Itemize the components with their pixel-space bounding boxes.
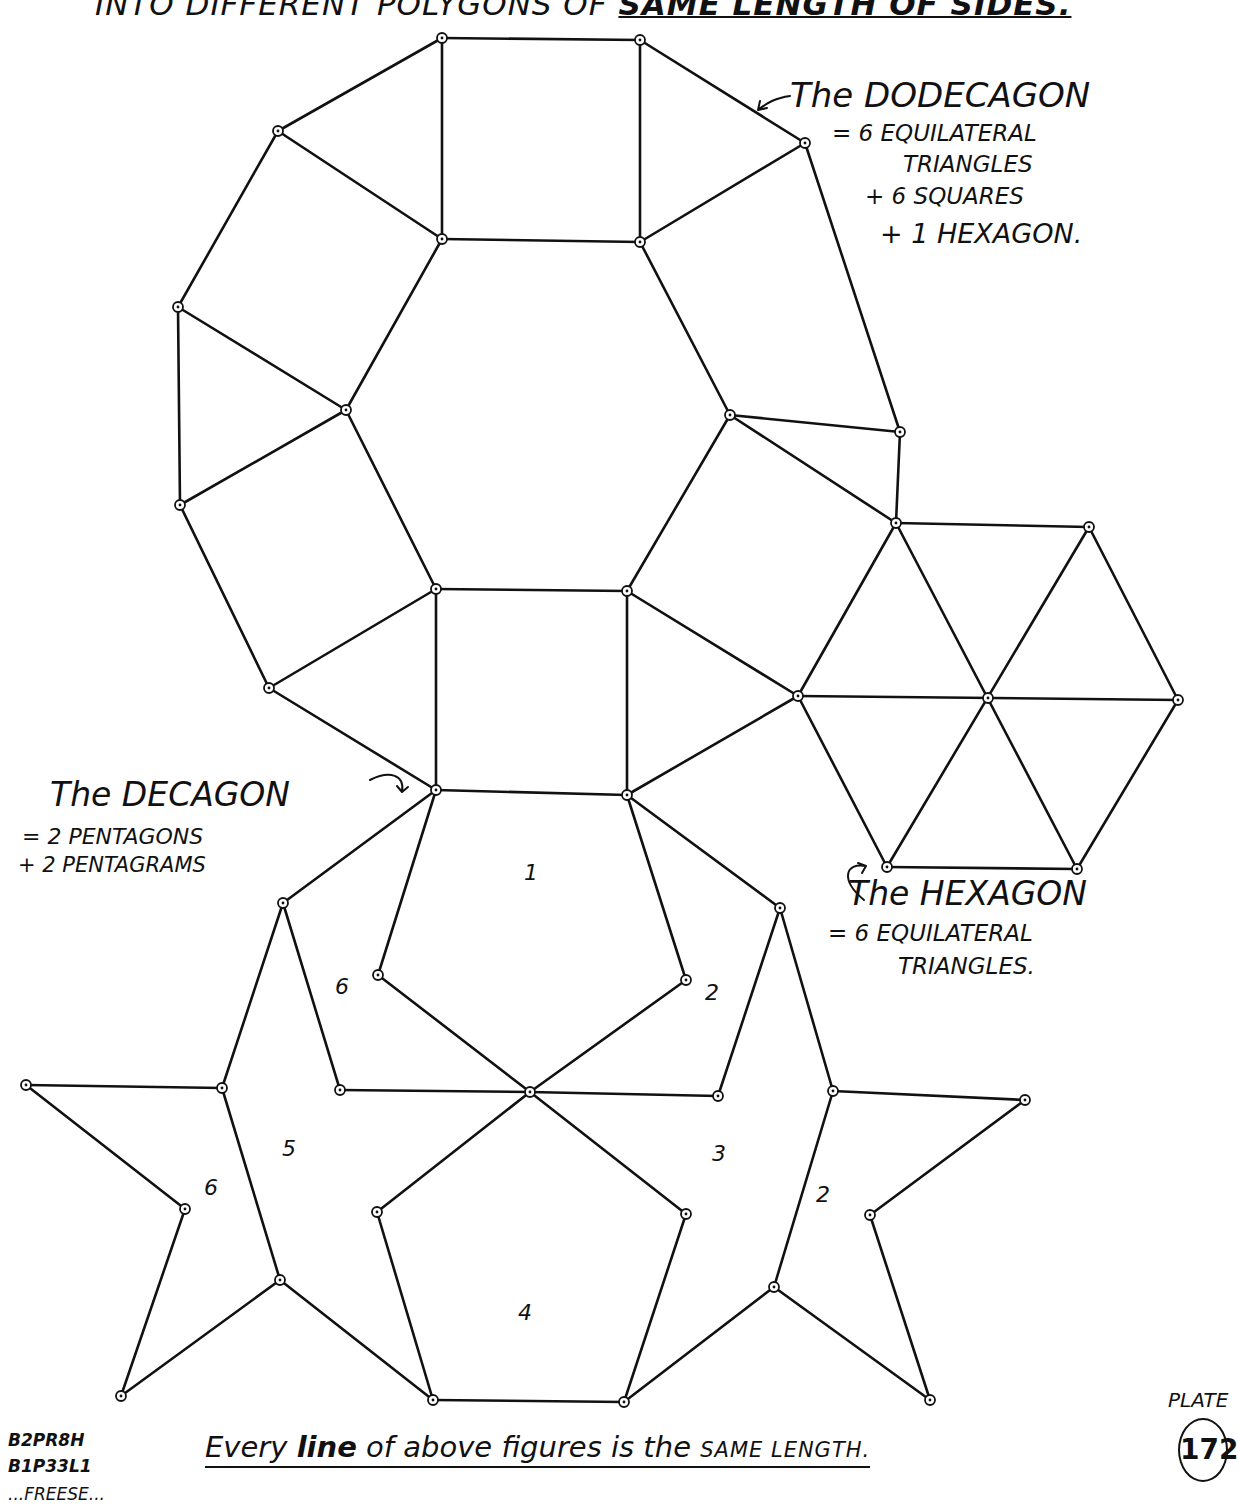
diagram-edge	[269, 688, 436, 790]
vertex-dot-icon	[717, 1095, 720, 1098]
diagram-edge	[780, 908, 833, 1091]
vertex-dot-icon	[773, 1286, 776, 1289]
diagram-edge	[121, 1209, 185, 1396]
vertex-dot-icon	[435, 789, 438, 792]
vertex-dot-icon	[279, 1279, 282, 1282]
diagram-edge	[627, 795, 686, 980]
vertex-dot-icon	[639, 39, 642, 42]
diagram-edge	[26, 1085, 222, 1088]
vertex-dot-icon	[179, 504, 182, 507]
dodecagon-label-line2: = 6 EQUILATERAL	[832, 122, 1037, 145]
code-line-1: B2PR8H	[8, 1430, 84, 1450]
vertex-dot-icon	[804, 142, 807, 145]
vertex-dot-icon	[626, 794, 629, 797]
vertex-dot-icon	[886, 866, 889, 869]
region-number-2-right: 2	[816, 1182, 830, 1207]
vertex-dot-icon	[120, 1395, 123, 1398]
vertex-dot-icon	[435, 588, 438, 591]
footer-emphasis-line: line	[297, 1430, 357, 1464]
region-number-2-top: 2	[705, 980, 719, 1005]
vertex-dot-icon	[177, 306, 180, 309]
vertex-dot-icon	[1177, 699, 1180, 702]
dodecagon-label-line4: + 6 SQUARES	[865, 185, 1024, 208]
diagram-edge	[436, 790, 627, 795]
diagram-edge	[178, 307, 346, 410]
diagram-edge	[180, 410, 346, 505]
diagram-edge	[346, 239, 442, 410]
footer-same-length: SAME LENGTH.	[700, 1438, 870, 1462]
vertex-dot-icon	[221, 1087, 224, 1090]
diagram-edge	[178, 131, 278, 307]
vertex-dot-icon	[184, 1208, 187, 1211]
diagram-edge	[283, 790, 436, 903]
vertex-dot-icon	[869, 1214, 872, 1217]
diagram-edge	[433, 1400, 624, 1402]
region-number-1: 1	[524, 860, 538, 885]
vertex-dot-icon	[268, 687, 271, 690]
hexagon-label-line3: TRIANGLES.	[898, 955, 1035, 978]
vertex-dot-icon	[626, 590, 629, 593]
vertex-dot-icon	[832, 1090, 835, 1093]
vertex-dot-icon	[441, 238, 444, 241]
vertex-dot-icon	[529, 1091, 532, 1094]
diagram-edge	[640, 40, 805, 143]
decagon-label-line2: = 2 PENTAGONS	[22, 826, 203, 848]
region-number-4: 4	[518, 1300, 532, 1325]
diagram-edge	[222, 903, 283, 1088]
diagram-edge	[627, 415, 730, 591]
diagram-edge	[887, 867, 1077, 869]
diagram-edge	[346, 410, 436, 589]
diagram-edge	[627, 795, 780, 908]
vertex-dot-icon	[899, 431, 902, 434]
diagram-edge	[798, 523, 896, 696]
diagram-edge	[1077, 700, 1178, 869]
vertex-dot-icon	[377, 974, 380, 977]
dodecagon-label-line3: TRIANGLES	[903, 153, 1033, 176]
diagram-edge	[833, 1091, 1025, 1100]
diagram-edge	[870, 1100, 1025, 1215]
diagram-edge	[896, 432, 900, 523]
diagram-edge	[442, 239, 640, 242]
diagram-edge	[436, 589, 627, 591]
vertex-dot-icon	[779, 907, 782, 910]
diagram-edge	[178, 307, 180, 505]
plate-number-badge: 172	[1178, 1418, 1228, 1482]
footer-part3: of above figures is the	[357, 1430, 700, 1464]
decagon-label-line3: + 2 PENTAGRAMS	[18, 855, 206, 876]
vertex-dot-icon	[1076, 868, 1079, 871]
region-number-5: 5	[282, 1136, 296, 1161]
vertex-dot-icon	[345, 409, 348, 412]
diagram-edge	[640, 242, 730, 415]
diagram-edge	[870, 1215, 930, 1400]
region-number-3: 3	[712, 1141, 726, 1166]
region-number-6-top: 6	[335, 974, 349, 999]
vertex-dot-icon	[282, 902, 285, 905]
diagram-edge	[377, 1092, 530, 1212]
diagram-edge	[340, 1090, 530, 1092]
decagon-arrow-icon	[370, 775, 408, 792]
decagon-label-title: The DECAGON	[50, 778, 290, 811]
vertex-dot-icon	[987, 697, 990, 700]
diagram-edge	[624, 1214, 686, 1402]
diagram-edge	[798, 696, 887, 867]
code-line-3: ...FREESE...	[8, 1484, 105, 1504]
diagram-edge	[377, 1212, 433, 1400]
diagram-edge	[269, 589, 436, 688]
diagram-edge	[627, 591, 798, 696]
vertex-dot-icon	[432, 1399, 435, 1402]
vertex-dot-icon	[929, 1399, 932, 1402]
footer-part1: Every	[205, 1430, 297, 1464]
diagram-edge	[180, 505, 269, 688]
dodecagon-label-line5: + 1 HEXAGON.	[880, 220, 1082, 247]
vertex-dot-icon	[895, 522, 898, 525]
vertex-dot-icon	[441, 37, 444, 40]
vertex-dot-icon	[729, 414, 732, 417]
diagram-edge	[278, 38, 442, 131]
dodecagon-label-title: The DODECAGON	[790, 78, 1090, 112]
plate-label: PLATE	[1168, 1388, 1228, 1412]
vertex-dot-icon	[685, 979, 688, 982]
diagram-edge	[730, 415, 896, 523]
diagram-edge	[730, 415, 900, 432]
diagram-edge	[222, 1088, 280, 1280]
vertex-dot-icon	[25, 1084, 28, 1087]
